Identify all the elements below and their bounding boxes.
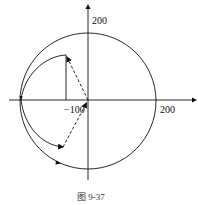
x-axis-label-neg100: −100 xyxy=(64,104,85,115)
y-axis-label-200: 200 xyxy=(92,15,107,26)
lower-locus-arc xyxy=(21,100,63,147)
upper-dashed-phasor xyxy=(67,57,88,100)
x-axis-arrow-icon xyxy=(192,98,197,103)
figure-caption: 图 9-37 xyxy=(77,192,105,202)
x-axis-label-200: 200 xyxy=(160,104,175,115)
upper-locus-arc xyxy=(21,55,66,100)
phasor-diagram: 200 200 −100 图 9-37 xyxy=(0,0,198,205)
y-axis-arrow-icon xyxy=(86,4,91,9)
outer-circle-arrow-icon xyxy=(56,161,62,165)
